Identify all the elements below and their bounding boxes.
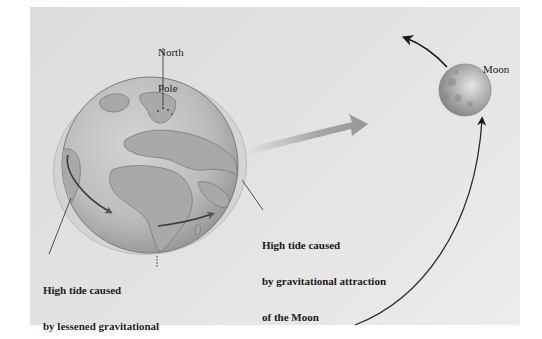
gravity-arrow-icon bbox=[245, 114, 368, 155]
near-tide-leader bbox=[242, 180, 263, 210]
diagram-stage: North Pole Moon High tide caused by grav… bbox=[0, 0, 542, 339]
far-side-tide-label: High tide caused by lessened gravitation… bbox=[43, 260, 180, 339]
globe-icon bbox=[61, 77, 238, 268]
moon-label: Moon bbox=[472, 51, 509, 87]
north-pole-label: North Pole bbox=[158, 22, 184, 118]
far-tide-leader bbox=[49, 198, 71, 254]
near-side-tide-label: High tide caused by gravitational attrac… bbox=[262, 215, 386, 339]
